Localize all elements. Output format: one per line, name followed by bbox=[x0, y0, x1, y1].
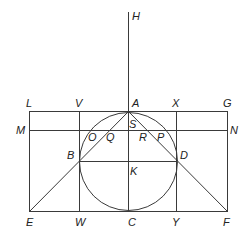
label-E: E bbox=[26, 216, 34, 228]
label-H: H bbox=[132, 10, 140, 22]
label-Y: Y bbox=[172, 216, 180, 228]
label-D: D bbox=[180, 149, 188, 161]
label-N: N bbox=[230, 124, 238, 136]
label-K: K bbox=[130, 165, 138, 177]
label-X: X bbox=[171, 97, 180, 109]
label-G: G bbox=[223, 97, 232, 109]
label-A: A bbox=[131, 97, 139, 109]
label-L: L bbox=[26, 97, 32, 109]
label-P: P bbox=[157, 131, 165, 143]
label-S: S bbox=[129, 118, 137, 130]
label-W: W bbox=[75, 216, 87, 228]
label-C: C bbox=[128, 216, 136, 228]
label-Q: Q bbox=[106, 131, 115, 143]
label-B: B bbox=[67, 149, 74, 161]
label-O: O bbox=[88, 131, 97, 143]
label-M: M bbox=[16, 124, 26, 136]
label-R: R bbox=[139, 131, 147, 143]
geometric-diagram: H L V A X G M N S O Q R P B D K E W C Y … bbox=[0, 0, 248, 238]
label-V: V bbox=[75, 97, 84, 109]
label-F: F bbox=[223, 216, 231, 228]
